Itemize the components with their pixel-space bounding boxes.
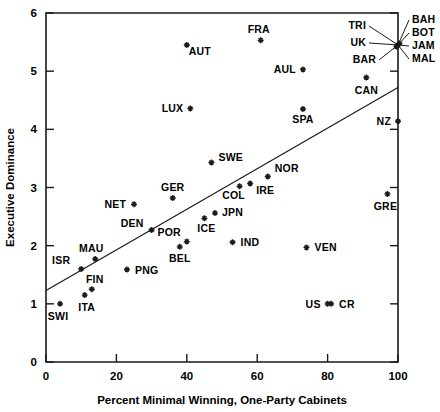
data-point-label: AUT: [189, 45, 212, 57]
data-point-marker: [258, 37, 264, 43]
data-point-marker: [247, 180, 253, 186]
x-axis-tick-label: 40: [180, 370, 193, 382]
data-point-marker: [170, 195, 176, 201]
data-point-marker: [187, 105, 193, 111]
data-point-marker: [124, 267, 130, 273]
data-point-label: GRE: [374, 200, 397, 212]
data-point-label: AUL: [274, 63, 297, 75]
data-point-label: NET: [104, 198, 126, 210]
y-axis-tick-label: 2: [31, 240, 37, 252]
data-point-label: CR: [339, 298, 355, 310]
data-point-label: SWI: [48, 310, 68, 322]
data-point-marker: [303, 244, 309, 250]
data-point-label: IND: [241, 236, 260, 248]
data-point-marker: [57, 301, 63, 307]
data-point-label: BEL: [169, 252, 191, 264]
data-point-label: JPN: [222, 206, 243, 218]
data-point-marker: [82, 292, 88, 298]
data-point-marker: [131, 201, 137, 207]
data-point-label: GER: [161, 181, 185, 193]
x-axis-tick-label: 20: [110, 370, 123, 382]
x-axis-tick-label: 100: [388, 370, 407, 382]
data-point-marker: [208, 159, 214, 165]
data-point-label: ITA: [78, 301, 95, 313]
data-point-label: SPA: [292, 113, 314, 125]
data-point-label: SWE: [218, 151, 243, 163]
cluster-point-label: JAM: [412, 39, 435, 51]
cluster-leader-line: [369, 43, 398, 45]
cluster-point-label: BOT: [412, 26, 435, 38]
data-point-label: ISR: [52, 254, 70, 266]
y-axis-title: Executive Dominance: [4, 128, 16, 247]
data-point-label: US: [306, 298, 321, 310]
y-axis-tick-label: 4: [31, 123, 38, 135]
plot-canvas: 0123456020406080100SWIITAFINISRMAUPNGNET…: [0, 0, 440, 412]
data-point-label: COL: [222, 189, 245, 201]
data-point-label: IRE: [256, 184, 274, 196]
data-point-label: POR: [157, 226, 181, 238]
y-axis-tick-label: 1: [31, 298, 38, 310]
x-axis-title: Percent Minimal Winning, One-Party Cabin…: [97, 394, 347, 406]
x-axis-tick-label: 60: [251, 370, 264, 382]
data-point-label: NOR: [275, 162, 299, 174]
data-point-label: FIN: [86, 273, 104, 285]
data-point-marker: [384, 191, 390, 197]
cluster-point-label: UK: [350, 36, 366, 48]
cluster-point-label: BAH: [412, 13, 435, 25]
data-point-marker: [300, 106, 306, 112]
data-point-label: ICE: [197, 222, 215, 234]
x-axis-tick-label: 80: [321, 370, 334, 382]
data-point-marker: [201, 215, 207, 221]
cluster-point-label: BAR: [353, 53, 377, 65]
y-axis-tick-label: 5: [31, 65, 38, 77]
data-point-marker: [265, 173, 271, 179]
y-axis-tick-label: 3: [31, 182, 37, 194]
data-point-label: NZ: [377, 115, 392, 127]
cluster-point-label: TRI: [348, 19, 366, 31]
data-point-marker: [212, 210, 218, 216]
cluster-leader-line: [369, 26, 398, 45]
data-point-label: PNG: [135, 264, 158, 276]
data-point-marker: [184, 239, 190, 245]
data-point-label: CAN: [355, 84, 378, 96]
data-point-marker: [177, 244, 183, 250]
y-axis-tick-label: 6: [31, 7, 37, 19]
data-point-label: FRA: [248, 23, 270, 35]
data-point-marker: [300, 66, 306, 72]
y-axis-tick-label: 0: [31, 356, 37, 368]
x-axis-tick-label: 0: [43, 370, 49, 382]
data-point-marker: [363, 75, 369, 81]
data-point-label: VEN: [314, 241, 336, 253]
data-point-label: MAU: [79, 242, 104, 254]
data-point-marker: [230, 239, 236, 245]
cluster-point-label: MAL: [412, 52, 436, 64]
scatter-plot-figure: 0123456020406080100SWIITAFINISRMAUPNGNET…: [0, 0, 440, 412]
data-point-marker: [395, 118, 401, 124]
data-point-marker: [89, 286, 95, 292]
data-point-label: DEN: [121, 217, 144, 229]
data-point-label: LUX: [162, 102, 184, 114]
